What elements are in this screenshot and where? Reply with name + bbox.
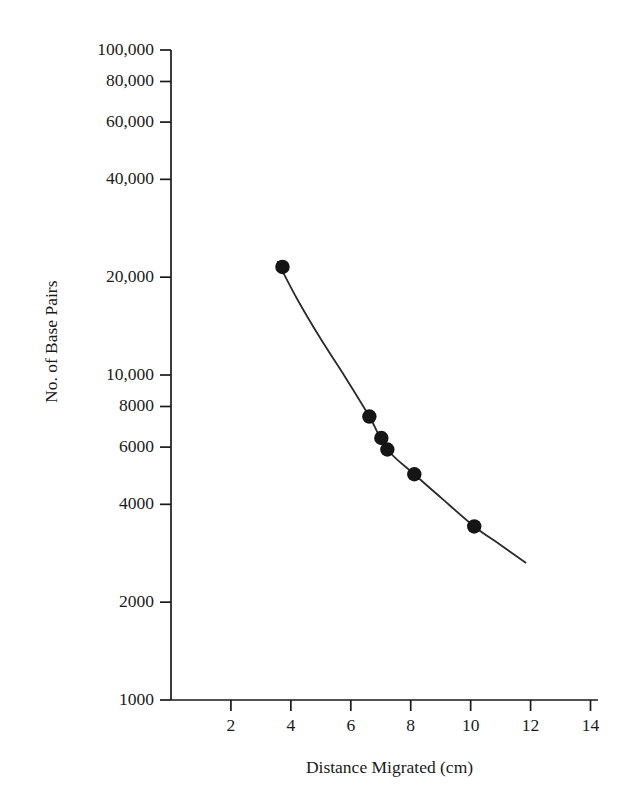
y-tick-label: 2000: [0, 593, 154, 611]
y-tick-label: 6000: [0, 438, 154, 456]
y-tick-label: 4000: [0, 496, 154, 514]
fitted-curve: [277, 261, 526, 563]
x-tick-label: 8: [406, 717, 415, 735]
data-point: [362, 409, 376, 423]
x-tick-label: 4: [286, 717, 295, 735]
chart-figure: 100,00080,00060,00040,00020,00010,000800…: [0, 0, 637, 808]
x-tick-label: 6: [346, 717, 355, 735]
data-point: [407, 467, 421, 481]
y-tick-label: 10,000: [0, 366, 154, 384]
x-tick-label: 14: [582, 717, 600, 735]
y-axis-title: No. of Base Pairs: [41, 281, 62, 403]
data-point: [380, 442, 394, 456]
x-tick-label: 10: [462, 717, 480, 735]
data-point: [467, 519, 481, 533]
x-tick-label: 12: [522, 717, 540, 735]
y-tick-label: 20,000: [0, 268, 154, 286]
x-tick-label: 2: [227, 717, 236, 735]
y-tick-label: 60,000: [0, 113, 154, 131]
y-tick-label: 1000: [0, 691, 154, 709]
axis-lines: [171, 50, 598, 700]
y-tick-label: 8000: [0, 398, 154, 416]
y-tick-marks: [160, 50, 171, 700]
data-point-markers: [275, 260, 481, 534]
y-tick-label: 100,000: [0, 41, 154, 59]
y-tick-label: 40,000: [0, 171, 154, 189]
data-point: [275, 260, 289, 274]
x-axis-title: Distance Migrated (cm): [306, 757, 473, 778]
x-tick-marks: [231, 700, 591, 711]
y-tick-label: 80,000: [0, 73, 154, 91]
